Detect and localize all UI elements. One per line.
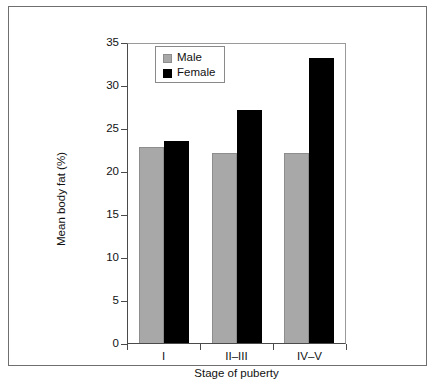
clipped-caption — [8, 374, 427, 384]
y-tick-label-0-wrap: 0 — [91, 338, 119, 350]
y-axis-title: Mean body fat (%) — [55, 129, 67, 269]
legend-label-male: Male — [177, 52, 202, 64]
y-tick-label-30: 30 — [93, 80, 119, 92]
legend-swatch-male-icon — [163, 54, 172, 63]
bar-female-stage-IV-V[interactable] — [309, 58, 334, 343]
y-tick-label-0: 0 — [93, 338, 119, 350]
bar-male-stage-II-III[interactable] — [212, 153, 237, 343]
plot-area — [127, 43, 346, 344]
bar-female-stage-II-III[interactable] — [237, 110, 262, 343]
y-tick-label-10: 10 — [93, 252, 119, 264]
legend: Male Female — [155, 46, 225, 83]
x-tick-label-stage-II-III: II–III — [200, 351, 273, 363]
y-tick-label-15: 15 — [93, 209, 119, 221]
y-tick-label-35-wrap: 35 — [91, 37, 119, 49]
bar-male-stage-IV-V[interactable] — [284, 153, 309, 344]
x-tick-2 — [273, 344, 274, 350]
bars-layer — [128, 44, 345, 343]
y-tick-label-5-wrap: 5 — [91, 295, 119, 307]
y-tick-label-35: 35 — [93, 37, 119, 49]
bar-female-stage-I[interactable] — [164, 141, 189, 344]
y-tick-label-25: 25 — [93, 123, 119, 135]
y-tick-label-5: 5 — [93, 295, 119, 307]
legend-swatch-female-icon — [163, 69, 172, 78]
y-tick-label-10-wrap: 10 — [91, 252, 119, 264]
y-tick-label-15-wrap: 15 — [91, 209, 119, 221]
bar-male-stage-I[interactable] — [139, 147, 164, 344]
legend-item-female[interactable]: Female — [163, 66, 224, 80]
y-tick-label-20-wrap: 20 — [91, 166, 119, 178]
x-tick-label-stage-I: I — [127, 351, 200, 363]
figure-border: Mean body fat (%) 35 30 25 20 15 10 5 — [8, 6, 427, 366]
x-tick-1 — [200, 344, 201, 350]
legend-item-male[interactable]: Male — [163, 51, 224, 65]
x-tick-left — [127, 344, 128, 350]
x-tick-right — [346, 344, 347, 350]
y-tick-label-30-wrap: 30 — [91, 80, 119, 92]
legend-label-female: Female — [177, 67, 215, 79]
y-tick-label-20: 20 — [93, 166, 119, 178]
y-tick-label-25-wrap: 25 — [91, 123, 119, 135]
x-tick-label-stage-IV-V: IV–V — [273, 351, 346, 363]
figure: Mean body fat (%) 35 30 25 20 15 10 5 — [0, 0, 435, 384]
